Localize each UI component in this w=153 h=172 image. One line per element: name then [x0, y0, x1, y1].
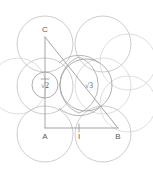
segment-cb-hypotenuse [45, 37, 118, 128]
label-vertex-c: C [42, 25, 48, 34]
label-layer: C A I B √2 √3 [41, 25, 121, 141]
label-vertex-a: A [42, 132, 48, 141]
grid-circle-bottom-right [75, 106, 131, 162]
label-midpoint-i: I [78, 132, 80, 141]
label-vertex-b: B [115, 132, 120, 141]
geometry-diagram: C A I B √2 √3 [0, 0, 153, 172]
grid-circle-middle-right [75, 58, 131, 114]
triangle-layer [41, 37, 118, 132]
grid-circle-left-edge [0, 58, 46, 114]
grid-circle-top-right [75, 16, 131, 72]
figure-root: C A I B √2 √3 [0, 0, 153, 172]
label-radical-three: √3 [85, 81, 93, 90]
lens-layer [59, 55, 99, 115]
label-radical-two: √2 [41, 81, 49, 90]
grid-circle-layer [0, 16, 153, 162]
